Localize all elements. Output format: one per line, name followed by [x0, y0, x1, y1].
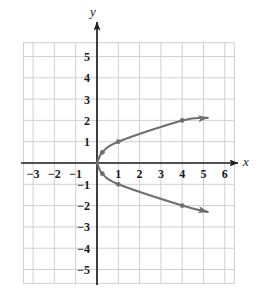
parabola-curve — [97, 118, 208, 212]
data-point-marker — [180, 203, 185, 208]
data-point-marker — [116, 182, 121, 187]
x-tick-label: 4 — [179, 167, 185, 181]
y-tick-label: 3 — [84, 93, 90, 107]
y-tick-label: 2 — [84, 114, 90, 128]
y-tick-label: −2 — [77, 199, 90, 213]
y-tick-label: −5 — [77, 263, 90, 277]
coordinate-plane: −3−2−112345654321−1−2−3−4−5 y x — [0, 0, 268, 297]
curve-lower-branch — [97, 163, 208, 212]
y-axis-label: y — [88, 4, 96, 19]
x-axis-label: x — [242, 154, 249, 169]
x-tick-label: −2 — [48, 167, 61, 181]
axes — [21, 22, 238, 285]
x-tick-label: 2 — [137, 167, 143, 181]
y-tick-label: −4 — [77, 242, 90, 256]
y-tick-label: 1 — [84, 135, 90, 149]
y-tick-label: 4 — [84, 71, 90, 85]
graph-figure: −3−2−112345654321−1−2−3−4−5 y x — [0, 0, 268, 297]
y-tick-label: −1 — [77, 178, 90, 192]
data-point-marker — [100, 171, 105, 176]
x-tick-label: 6 — [222, 167, 228, 181]
curve-upper-branch — [97, 118, 208, 163]
data-point-marker — [116, 139, 121, 144]
data-point-marker — [180, 118, 185, 123]
x-tick-label: −3 — [27, 167, 40, 181]
y-tick-label: −3 — [77, 220, 90, 234]
data-point-marker — [100, 150, 105, 155]
x-tick-label: 5 — [201, 167, 207, 181]
x-tick-label: 3 — [158, 167, 164, 181]
y-tick-label: 5 — [84, 50, 90, 64]
x-tick-label: 1 — [115, 167, 121, 181]
